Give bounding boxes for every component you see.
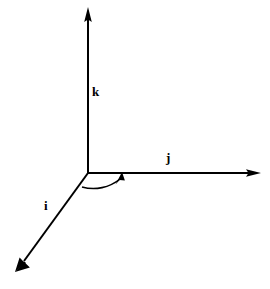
i-axis-label: i [44,199,48,212]
j-axis-label: j [166,151,170,164]
vector-basis-diagram: k j i [0,0,270,289]
j-axis [88,169,261,177]
i-axis [15,173,88,272]
k-axis [84,7,92,173]
k-axis-label: k [92,85,99,98]
axes-svg [0,0,270,289]
i-axis-line [24,173,88,261]
angle-arc-i-to-j [82,172,125,189]
angle-arc-path [82,179,120,189]
